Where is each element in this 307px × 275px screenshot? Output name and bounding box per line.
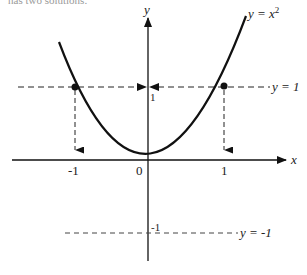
lower-line-label: y = -1	[238, 225, 272, 240]
x-tick-neg1: -1	[68, 163, 79, 178]
x-axis-label: x	[290, 152, 297, 167]
origin-label: 0	[136, 163, 143, 178]
arrow-right-to-axis-icon	[149, 83, 159, 91]
parabola-curve	[59, 16, 246, 154]
y-axis-label: y	[142, 2, 150, 17]
upper-line-label: y = 1	[270, 79, 300, 94]
intersection-point-right	[221, 83, 228, 90]
y-tick-neg1: -1	[151, 221, 160, 233]
curve-label-exponent: 2	[275, 5, 280, 15]
arrow-left-to-axis-icon	[137, 83, 147, 91]
parabola-diagram: y x 0 -1 1 1 -1 y = x2 y = 1 y = -1	[0, 0, 307, 275]
x-tick-1: 1	[221, 163, 228, 178]
intersection-point-left	[72, 84, 79, 91]
curve-label: y = x2	[246, 5, 279, 21]
curve-label-base: y = x	[246, 6, 275, 21]
y-tick-1: 1	[150, 91, 156, 103]
